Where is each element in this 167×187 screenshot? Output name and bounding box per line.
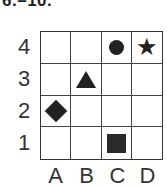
circle-icon <box>109 40 124 55</box>
cell-A4 <box>41 32 71 64</box>
row-label-1: 1 <box>16 130 32 156</box>
row-label-4: 4 <box>16 34 32 60</box>
triangle-icon <box>76 71 96 88</box>
star-icon: ★ <box>136 35 158 59</box>
row-label-3: 3 <box>16 66 32 92</box>
cell-B3 <box>71 64 101 96</box>
cell-A1 <box>41 127 71 159</box>
column-label-C: C <box>102 163 133 187</box>
cell-D2 <box>132 96 162 128</box>
column-label-B: B <box>71 163 102 187</box>
column-label-D: D <box>132 163 163 187</box>
problem-number: 6.–10. <box>2 0 52 11</box>
cell-D1 <box>132 127 162 159</box>
square-icon <box>107 134 126 153</box>
cell-B2 <box>71 96 101 128</box>
cell-C1 <box>102 127 132 159</box>
cell-A2 <box>41 96 71 128</box>
cell-B1 <box>71 127 101 159</box>
diamond-icon <box>44 100 67 123</box>
cell-C2 <box>102 96 132 128</box>
coordinate-grid: ★ <box>40 31 163 160</box>
cell-A3 <box>41 64 71 96</box>
cell-C4 <box>102 32 132 64</box>
cell-C3 <box>102 64 132 96</box>
cell-D4: ★ <box>132 32 162 64</box>
column-label-A: A <box>40 163 71 187</box>
row-label-2: 2 <box>16 98 32 124</box>
cell-B4 <box>71 32 101 64</box>
cell-D3 <box>132 64 162 96</box>
